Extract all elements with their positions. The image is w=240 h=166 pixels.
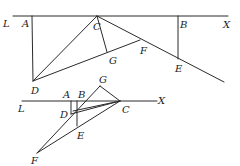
label-d: D bbox=[59, 109, 68, 120]
label-d: D bbox=[30, 85, 39, 96]
label-c: C bbox=[93, 21, 101, 32]
segment-ad bbox=[32, 16, 33, 81]
label-f: F bbox=[139, 45, 148, 56]
label-l: L bbox=[2, 18, 10, 29]
label-e: E bbox=[174, 63, 183, 74]
label-g: G bbox=[109, 55, 117, 66]
label-c: C bbox=[122, 104, 130, 115]
label-f: F bbox=[30, 155, 39, 166]
geometry-diagram: L A C B X G F E D G A B X L D C E F bbox=[0, 0, 240, 166]
label-b: B bbox=[179, 19, 187, 30]
segment-dc bbox=[33, 16, 97, 81]
label-g: G bbox=[99, 74, 107, 85]
label-l: L bbox=[17, 103, 25, 114]
label-b: B bbox=[77, 89, 85, 100]
label-x: X bbox=[222, 19, 231, 30]
segment-gc bbox=[100, 86, 120, 101]
segment-df bbox=[33, 40, 140, 81]
label-a: A bbox=[62, 89, 70, 100]
label-x: X bbox=[157, 95, 166, 106]
figure-top: L A C B X G F E D bbox=[2, 16, 231, 96]
figure-bottom: G A B X L D C E F bbox=[17, 74, 166, 166]
label-e: E bbox=[76, 130, 85, 141]
label-a: A bbox=[21, 18, 29, 29]
